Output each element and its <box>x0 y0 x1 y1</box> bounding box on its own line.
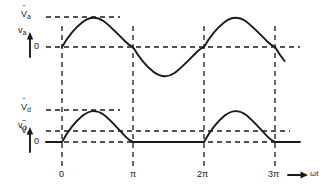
lower-peak-accent: ˆ <box>23 97 26 105</box>
upper-peak-subscript: a <box>27 13 31 20</box>
waveform-figure: ˆVa 0 va ˆVd ‾Vd 0 vd 0 π 2π 3π ωt <box>0 0 328 192</box>
x-axis-label: ωt <box>310 170 318 178</box>
waveform-canvas <box>0 0 328 192</box>
lower-peak-label: ˆVd <box>21 103 31 113</box>
upper-y-axis-subscript: a <box>23 29 27 36</box>
lower-rectified-waveform <box>46 111 300 142</box>
upper-peak-accent: ˆ <box>23 4 26 12</box>
upper-y-axis-arrow-head <box>27 32 33 40</box>
x-tick-label-3pi: 3π <box>268 170 279 179</box>
lower-y-axis-label: vd <box>18 121 26 131</box>
x-tick-label-0: 0 <box>59 170 64 179</box>
lower-peak-subscript: d <box>27 106 31 113</box>
upper-zero-label: 0 <box>34 42 39 51</box>
x-axis-arrow <box>288 172 308 179</box>
lower-zero-label: 0 <box>34 137 39 146</box>
lower-y-axis-subscript: d <box>23 124 27 131</box>
upper-peak-label: ˆVa <box>21 10 31 20</box>
x-axis-arrow-head <box>301 172 309 179</box>
x-tick-label-pi: π <box>130 170 136 179</box>
lower-average-subscript: d <box>27 129 31 136</box>
x-tick-label-2pi: 2π <box>197 170 208 179</box>
upper-y-axis-label: va <box>18 26 26 36</box>
